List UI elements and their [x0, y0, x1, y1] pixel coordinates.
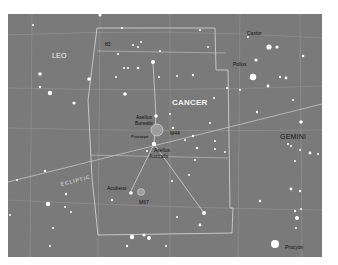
- m67-cluster-icon: [138, 189, 145, 196]
- ecliptic-line: [8, 104, 322, 182]
- star-label-pollux: Pollux: [233, 62, 247, 67]
- stars: [9, 14, 319, 248]
- constellation-label-cancer: CANCER: [172, 98, 207, 107]
- constellation-label-gemini: GEMINI: [280, 133, 306, 140]
- star-label-asellus-australis-2: Australis: [149, 154, 168, 159]
- star-label-castor: Castor: [247, 31, 262, 36]
- object-label-83: 83: [105, 42, 111, 47]
- coordinate-grid: [8, 14, 322, 257]
- constellation-label-leo: LEO: [52, 52, 67, 59]
- object-label-praesepe: Praesepe: [131, 134, 148, 139]
- object-label-m67: M67: [139, 200, 149, 205]
- star-label-acubens: Acubens: [107, 186, 126, 191]
- star-label-asellus-borealis-2: Borealis: [135, 121, 153, 126]
- star-label-procyon: Procyon: [285, 245, 303, 250]
- star-chart: LEO CANCER GEMINI Castor Pollux Asellus …: [8, 14, 322, 257]
- object-label-m44: M44: [170, 131, 180, 136]
- chart-graphics: [8, 14, 322, 257]
